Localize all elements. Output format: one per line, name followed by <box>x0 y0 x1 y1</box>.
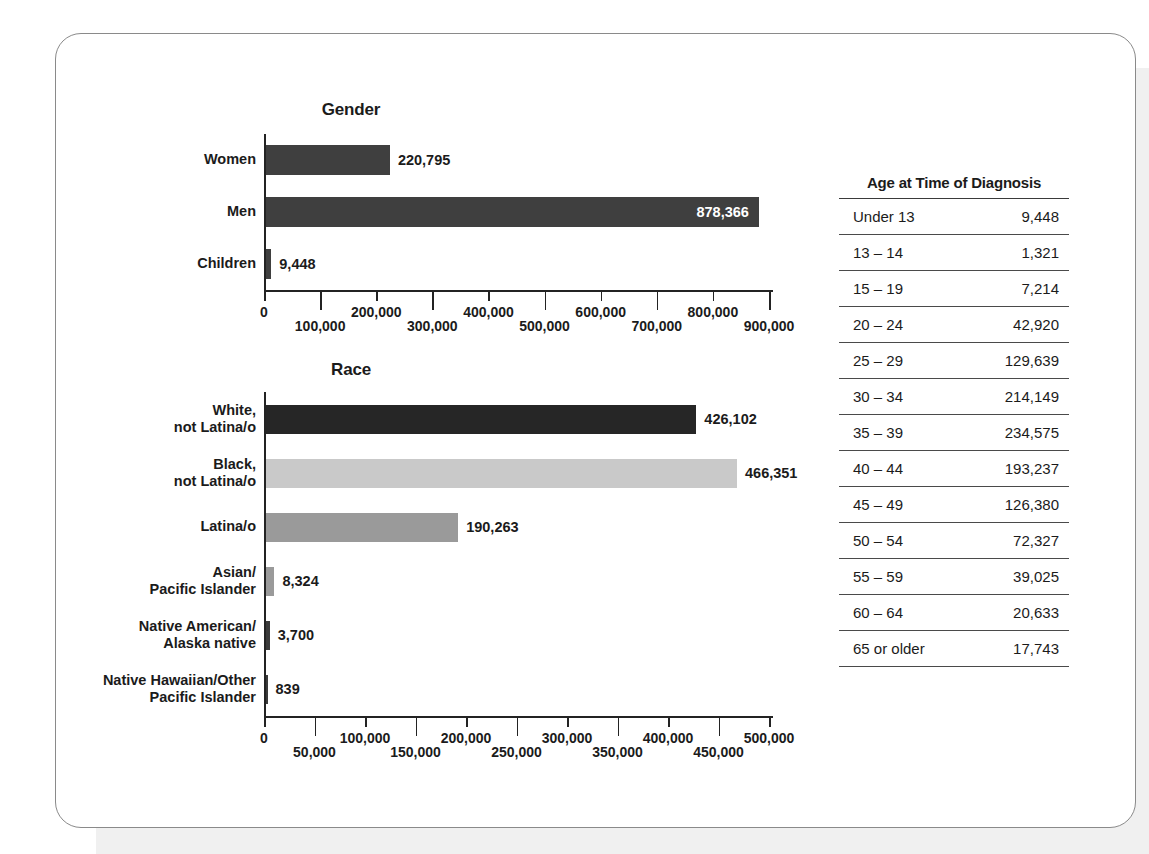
x-axis-tick <box>488 290 490 301</box>
bar <box>266 675 268 704</box>
bar-row: White, not Latina/o426,102 <box>264 405 769 434</box>
bar-category-label: Children <box>197 255 256 272</box>
x-axis-tick <box>657 290 659 310</box>
bar-value-label: 220,795 <box>398 152 450 168</box>
table-header-title: Age at Time of Diagnosis <box>839 174 1069 199</box>
bar-value-label: 878,366 <box>696 204 748 220</box>
bar-value-label: 3,700 <box>278 627 314 643</box>
table-row: Under 139,448 <box>839 199 1069 235</box>
content-card: Gender Women220,795Men878,366Children9,4… <box>55 33 1136 828</box>
x-axis-tick <box>769 716 771 727</box>
bar-row: Children9,448 <box>264 249 769 279</box>
age-range-cell: 60 – 64 <box>839 595 970 631</box>
x-axis-tick-label: 0 <box>260 730 268 746</box>
table-header-row: Age at Time of Diagnosis <box>839 174 1069 199</box>
y-axis-line <box>264 392 266 722</box>
age-range-cell: 45 – 49 <box>839 487 970 523</box>
x-axis-tick-label: 150,000 <box>390 744 441 760</box>
x-axis-tick <box>320 290 322 310</box>
bar-category-label: Black, not Latina/o <box>174 456 256 490</box>
age-count-cell: 234,575 <box>970 415 1069 451</box>
age-at-diagnosis-table-wrap: Age at Time of Diagnosis Under 139,44813… <box>839 174 1069 667</box>
infographic-page: Gender Women220,795Men878,366Children9,4… <box>0 0 1149 854</box>
bar-category-label: Latina/o <box>200 518 256 535</box>
x-axis-tick <box>601 290 603 301</box>
bar-row: Women220,795 <box>264 145 769 175</box>
bar-category-label: Asian/ Pacific Islander <box>150 564 256 598</box>
bar <box>266 197 759 227</box>
x-axis-tick <box>719 716 721 736</box>
x-axis-tick-label: 400,000 <box>643 730 694 746</box>
x-axis-tick-label: 200,000 <box>351 304 402 320</box>
x-axis-tick <box>416 716 418 736</box>
bar <box>266 621 270 650</box>
bar-category-label: Native American/ Alaska native <box>139 618 256 652</box>
x-axis-line <box>264 716 773 718</box>
x-axis-tick-label: 100,000 <box>340 730 391 746</box>
x-axis-tick-label: 800,000 <box>688 304 739 320</box>
x-axis-tick <box>264 716 266 727</box>
age-range-cell: 35 – 39 <box>839 415 970 451</box>
bar-value-label: 8,324 <box>282 573 318 589</box>
race-bar-chart: White, not Latina/o426,102Black, not Lat… <box>264 392 769 732</box>
age-range-cell: 15 – 19 <box>839 271 970 307</box>
x-axis-tick <box>466 716 468 727</box>
bar <box>266 405 696 434</box>
age-count-cell: 1,321 <box>970 235 1069 271</box>
x-axis-tick-label: 300,000 <box>407 318 458 334</box>
bar-row: Men878,366 <box>264 197 769 227</box>
x-axis-tick-label: 0 <box>260 304 268 320</box>
age-range-cell: 13 – 14 <box>839 235 970 271</box>
age-range-cell: 55 – 59 <box>839 559 970 595</box>
age-count-cell: 17,743 <box>970 631 1069 667</box>
x-axis-tick <box>432 290 434 310</box>
age-range-cell: 20 – 24 <box>839 307 970 343</box>
x-axis-tick <box>264 290 266 301</box>
bar-row: Native Hawaiian/Other Pacific Islander83… <box>264 675 769 704</box>
age-count-cell: 72,327 <box>970 523 1069 559</box>
x-axis-line <box>264 290 773 292</box>
x-axis-tick <box>315 716 317 736</box>
x-axis-tick-label: 450,000 <box>693 744 744 760</box>
charts-column: Gender Women220,795Men878,366Children9,4… <box>56 34 846 829</box>
age-range-cell: Under 13 <box>839 199 970 235</box>
age-range-cell: 65 or older <box>839 631 970 667</box>
table-row: 65 or older17,743 <box>839 631 1069 667</box>
bar <box>266 567 274 596</box>
age-count-cell: 20,633 <box>970 595 1069 631</box>
x-axis-tick-label: 200,000 <box>441 730 492 746</box>
age-count-cell: 214,149 <box>970 379 1069 415</box>
x-axis-tick <box>365 716 367 727</box>
gender-chart-title: Gender <box>0 100 746 120</box>
bar-category-label: Native Hawaiian/Other Pacific Islander <box>103 672 256 706</box>
table-row: 40 – 44193,237 <box>839 451 1069 487</box>
age-count-cell: 129,639 <box>970 343 1069 379</box>
bar-category-label: Men <box>227 203 256 220</box>
x-axis-tick-label: 100,000 <box>295 318 346 334</box>
x-axis-tick-label: 900,000 <box>744 318 795 334</box>
x-axis-tick-label: 250,000 <box>491 744 542 760</box>
table-body: Under 139,44813 – 141,32115 – 197,21420 … <box>839 199 1069 667</box>
table-row: 30 – 34214,149 <box>839 379 1069 415</box>
table-row: 60 – 6420,633 <box>839 595 1069 631</box>
gender-bar-chart: Women220,795Men878,366Children9,4480100,… <box>264 134 769 294</box>
age-count-cell: 7,214 <box>970 271 1069 307</box>
x-axis-tick-label: 50,000 <box>293 744 336 760</box>
age-count-cell: 126,380 <box>970 487 1069 523</box>
table-row: 15 – 197,214 <box>839 271 1069 307</box>
bar-value-label: 190,263 <box>466 519 518 535</box>
bar-category-label: White, not Latina/o <box>174 402 256 436</box>
x-axis-tick-label: 700,000 <box>631 318 682 334</box>
table-row: 35 – 39234,575 <box>839 415 1069 451</box>
bar <box>266 459 737 488</box>
age-range-cell: 25 – 29 <box>839 343 970 379</box>
bar-value-label: 9,448 <box>279 256 315 272</box>
bar-row: Black, not Latina/o466,351 <box>264 459 769 488</box>
age-count-cell: 39,025 <box>970 559 1069 595</box>
bar-value-label: 839 <box>276 681 300 697</box>
table-row: 20 – 2442,920 <box>839 307 1069 343</box>
bar-value-label: 426,102 <box>704 411 756 427</box>
table-row: 50 – 5472,327 <box>839 523 1069 559</box>
age-count-cell: 193,237 <box>970 451 1069 487</box>
x-axis-tick <box>545 290 547 310</box>
